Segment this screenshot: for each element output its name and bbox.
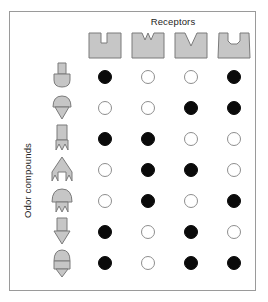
binding-dot-r3-c4 [227, 132, 241, 146]
odor-compound-shape-column [44, 62, 80, 284]
odor-compound-shape-5-icon [44, 186, 80, 217]
binding-dot-r5-c2 [141, 194, 155, 208]
binding-dot-r1-c4 [227, 70, 241, 84]
binding-dot-r5-c3 [184, 194, 198, 208]
binding-dot-r1-c1 [98, 70, 112, 84]
binding-matrix-figure: Receptors Odor compounds [0, 0, 268, 302]
binding-dot-r5-c4 [227, 194, 241, 208]
binding-dot-r6-c1 [98, 225, 112, 239]
binding-dot-r3-c3 [184, 132, 198, 146]
binding-dot-r2-c2 [141, 101, 155, 115]
binding-dot-matrix [88, 62, 248, 284]
binding-dot-r4-c4 [227, 163, 241, 177]
binding-dot-r7-c2 [141, 256, 155, 270]
receptor-shape-4-icon [217, 29, 251, 63]
binding-dot-r7-c4 [227, 256, 241, 270]
binding-dot-r1-c2 [141, 70, 155, 84]
binding-dot-r4-c1 [98, 163, 112, 177]
receptor-shape-2-icon [131, 29, 165, 63]
odor-compound-shape-3-icon [44, 124, 80, 155]
odor-compound-shape-2-icon [44, 93, 80, 124]
binding-dot-r4-c2 [141, 163, 155, 177]
receptor-shape-1-icon [88, 29, 122, 63]
binding-dot-r2-c4 [227, 101, 241, 115]
binding-dot-r7-c3 [184, 256, 198, 270]
odor-compound-shape-1-icon [44, 62, 80, 93]
binding-dot-r6-c4 [227, 225, 241, 239]
binding-dot-r5-c1 [98, 194, 112, 208]
binding-dot-r7-c1 [98, 256, 112, 270]
odor-compounds-header-label: Odor compounds [22, 121, 33, 241]
odor-compound-shape-6-icon [44, 217, 80, 248]
binding-dot-r1-c3 [184, 70, 198, 84]
binding-dot-r3-c1 [98, 132, 112, 146]
binding-dot-r2-c1 [98, 101, 112, 115]
receptor-shape-3-icon [174, 29, 208, 63]
odor-compound-shape-4-icon [44, 155, 80, 186]
receptors-header-label: Receptors [93, 16, 253, 27]
binding-dot-r2-c3 [184, 101, 198, 115]
binding-dot-r6-c3 [184, 225, 198, 239]
binding-dot-r6-c2 [141, 225, 155, 239]
binding-dot-r4-c3 [184, 163, 198, 177]
binding-dot-r3-c2 [141, 132, 155, 146]
receptor-shape-row [88, 29, 248, 63]
odor-compound-shape-7-icon [44, 248, 80, 279]
